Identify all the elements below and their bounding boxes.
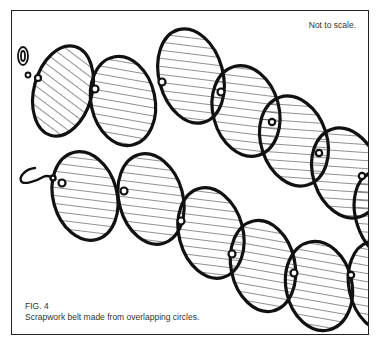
hook-icon xyxy=(21,168,56,183)
ring-icon xyxy=(35,75,41,81)
belt-diagram xyxy=(12,11,369,335)
figure-frame: Not to scale. FIG. 4 Scrapwork belt made… xyxy=(11,10,369,335)
ring-icon xyxy=(348,272,354,278)
ring-icon xyxy=(59,180,66,187)
ring-icon xyxy=(269,119,275,125)
eyelet-loop-icon xyxy=(18,47,31,78)
ring-icon xyxy=(218,89,225,96)
ring-icon xyxy=(359,173,365,179)
ring-icon xyxy=(92,86,99,93)
ring-icon xyxy=(291,270,298,277)
lower-circle-1 xyxy=(42,144,127,247)
ring-icon xyxy=(121,188,128,195)
ring-icon xyxy=(178,218,185,225)
ring-icon xyxy=(159,79,166,86)
ring-icon xyxy=(316,150,322,156)
upper-circle-2 xyxy=(82,50,163,151)
ring-icon xyxy=(229,251,236,258)
figure-caption: Scrapwork belt made from overlapping cir… xyxy=(25,312,199,322)
figure-label: FIG. 4 xyxy=(25,301,49,311)
scale-note: Not to scale. xyxy=(309,20,356,30)
